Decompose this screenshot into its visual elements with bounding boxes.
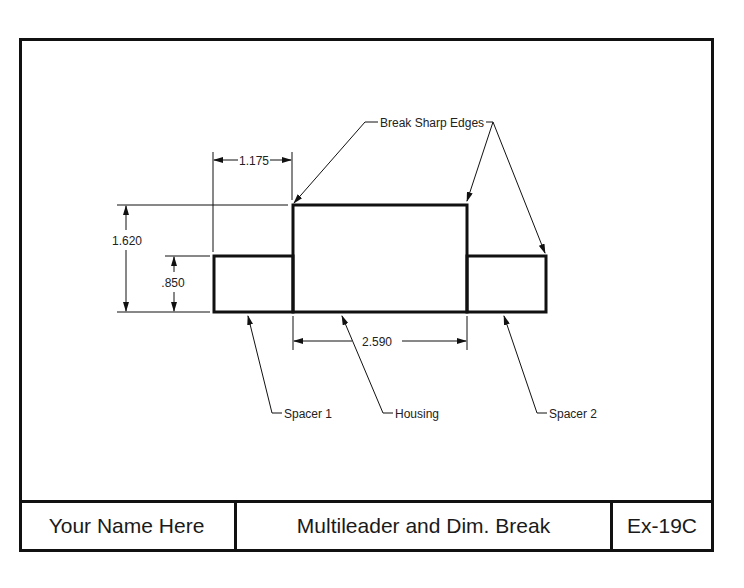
- leader-label-housing: Housing: [395, 407, 439, 421]
- title-block: Your Name Here Multileader and Dim. Brea…: [19, 500, 711, 549]
- spacer-1-shape: [214, 256, 293, 312]
- dimension-lines: [126, 160, 466, 341]
- title-block-name: Your Name Here: [19, 503, 237, 549]
- title-block-title: Multileader and Dim. Break: [237, 503, 613, 549]
- spacer-2-shape: [467, 256, 546, 312]
- housing-shape: [293, 205, 467, 312]
- drawing-sheet: 1.175 1.620 .850 2.590 Break Sharp Edges…: [0, 0, 744, 588]
- dim-housing-width: 2.590: [362, 335, 392, 349]
- part-outlines: [214, 205, 546, 312]
- title-block-number: Ex-19C: [613, 503, 711, 549]
- dim-overall-height: 1.620: [112, 234, 142, 248]
- leader-break-sharp-edges: [294, 122, 545, 253]
- dim-horizontal-offset: 1.175: [239, 154, 269, 168]
- leader-label-break-sharp-edges: Break Sharp Edges: [380, 116, 484, 130]
- leader-label-spacer-2: Spacer 2: [549, 407, 597, 421]
- leader-label-spacer-1: Spacer 1: [284, 407, 332, 421]
- dim-spacer-height: .850: [161, 276, 185, 290]
